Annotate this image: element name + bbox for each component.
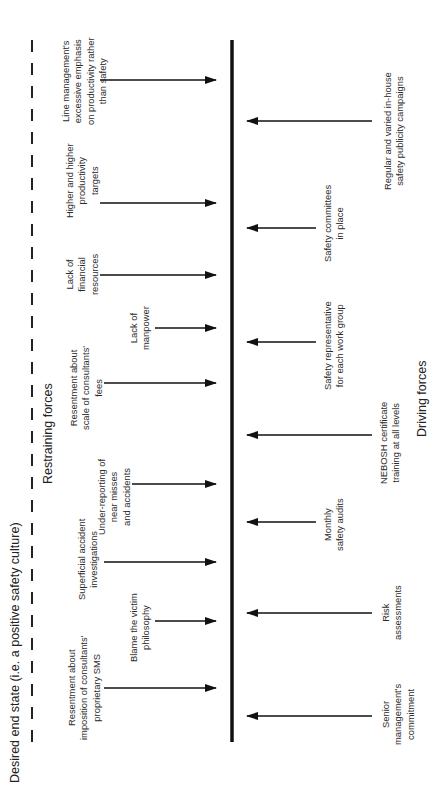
restraining-force-label: Higher and higher productivity targets: [64, 143, 101, 218]
driving-force-label: Safety committees in place: [322, 185, 347, 262]
restraining-force-label: Lack of financial resources: [64, 254, 101, 295]
restraining-force-label: Resentment about scale of consultants' f…: [68, 346, 105, 430]
restraining-force-label: Lack of manpower: [128, 306, 153, 350]
restraining-force-label: Line management's excessive emphasis on …: [60, 37, 110, 125]
restraining-force-label: Superficial accident investigations: [76, 519, 101, 600]
driving-force-label: Regular and varied in-house safety publi…: [382, 72, 407, 190]
driving-arrows: [247, 121, 372, 716]
driving-force-label: Monthly safety audits: [322, 498, 347, 551]
force-field-diagram: Desired end state (i.e. a positive safet…: [0, 0, 444, 812]
driving-force-label: NEBOSH certificate training at all level…: [378, 402, 403, 484]
desired-state-heading: Desired end state (i.e. a positive safet…: [8, 522, 22, 783]
restraining-arrows: [100, 80, 216, 688]
restraining-forces-heading: Restraining forces: [41, 383, 55, 484]
driving-force-label: Senior management's commitment: [380, 684, 417, 745]
driving-force-label: Risk assessments: [380, 585, 405, 640]
restraining-force-label: Resentment about imposition of consultan…: [66, 636, 103, 740]
driving-force-label: Safety representative for each work grou…: [322, 301, 347, 390]
restraining-force-label: Under-reporting of near misses and accid…: [96, 459, 133, 535]
restraining-force-label: Blame the victim philosophy: [128, 593, 153, 662]
driving-forces-heading: Driving forces: [415, 361, 429, 437]
